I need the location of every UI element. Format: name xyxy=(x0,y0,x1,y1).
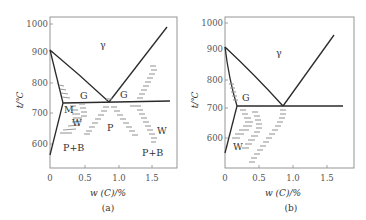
region-w: W xyxy=(233,141,243,152)
panel-b-y-axis-label: t/℃ xyxy=(190,91,200,109)
panel-a-caption: (a) xyxy=(102,203,114,213)
y-tick-label: 800 xyxy=(32,78,48,88)
region-pb-left: P+B xyxy=(63,142,84,153)
a3-line xyxy=(225,47,283,106)
x-tick-label: 1.5 xyxy=(145,173,159,183)
y-tick-label: 600 xyxy=(207,133,223,143)
panel-b-caption: (b) xyxy=(285,203,298,213)
left-boundary-line xyxy=(50,50,63,103)
region-g-left: G xyxy=(80,90,88,101)
x-tick-label: 0 xyxy=(222,173,227,183)
panel-a-region-labels: γ G G M W P W P+B P+B xyxy=(63,39,167,158)
x-tick-label: 1.0 xyxy=(286,173,300,183)
y-tick-label: 600 xyxy=(32,139,48,149)
region-w-left: W xyxy=(72,117,82,128)
a1-line xyxy=(63,101,170,103)
region-p: P xyxy=(107,122,114,133)
acm-line xyxy=(283,35,334,106)
acm-line xyxy=(109,27,167,102)
panel-a-x-axis-label: w (C)/% xyxy=(90,188,126,198)
y-tick-label: 700 xyxy=(207,103,223,113)
panel-a-y-axis-label: t/℃ xyxy=(15,91,25,109)
region-gamma: γ xyxy=(276,47,282,58)
y-tick-label: 1000 xyxy=(201,18,223,28)
x-tick-label: 0.5 xyxy=(252,173,266,183)
x-tick-label: 0 xyxy=(47,173,52,183)
panel-b-y-ticks: 1000 900 800 700 600 xyxy=(201,18,228,143)
panel-a-phase-lines xyxy=(50,27,170,155)
y-tick-label: 1000 xyxy=(26,19,48,29)
region-m: M xyxy=(64,104,74,115)
x-tick-label: 1.0 xyxy=(112,173,126,183)
region-g-right: G xyxy=(120,89,128,100)
region-gamma: γ xyxy=(100,39,106,50)
x-tick-label: 1.5 xyxy=(320,173,334,183)
x-tick-label: 0.5 xyxy=(78,173,92,183)
panel-b-x-axis-label: w (C)/% xyxy=(265,188,301,198)
panel-a: 1000 900 800 700 600 0 0.5 1.0 1.5 t/℃ w… xyxy=(15,17,177,213)
y-tick-label: 900 xyxy=(207,44,223,54)
panel-a-y-ticks: 1000 900 800 700 600 xyxy=(26,19,53,149)
lower-left-line xyxy=(50,103,63,155)
diagram-canvas: 1000 900 800 700 600 0 0.5 1.0 1.5 t/℃ w… xyxy=(0,0,366,220)
panel-b: 1000 900 800 700 600 0 0.5 1.0 1.5 t/℃ w… xyxy=(190,17,354,213)
region-pb-right: P+B xyxy=(142,147,163,158)
y-tick-label: 900 xyxy=(32,47,48,57)
y-tick-label: 700 xyxy=(32,108,48,118)
region-w-right: W xyxy=(157,125,167,136)
y-tick-label: 800 xyxy=(207,75,223,85)
region-g: G xyxy=(242,92,250,103)
